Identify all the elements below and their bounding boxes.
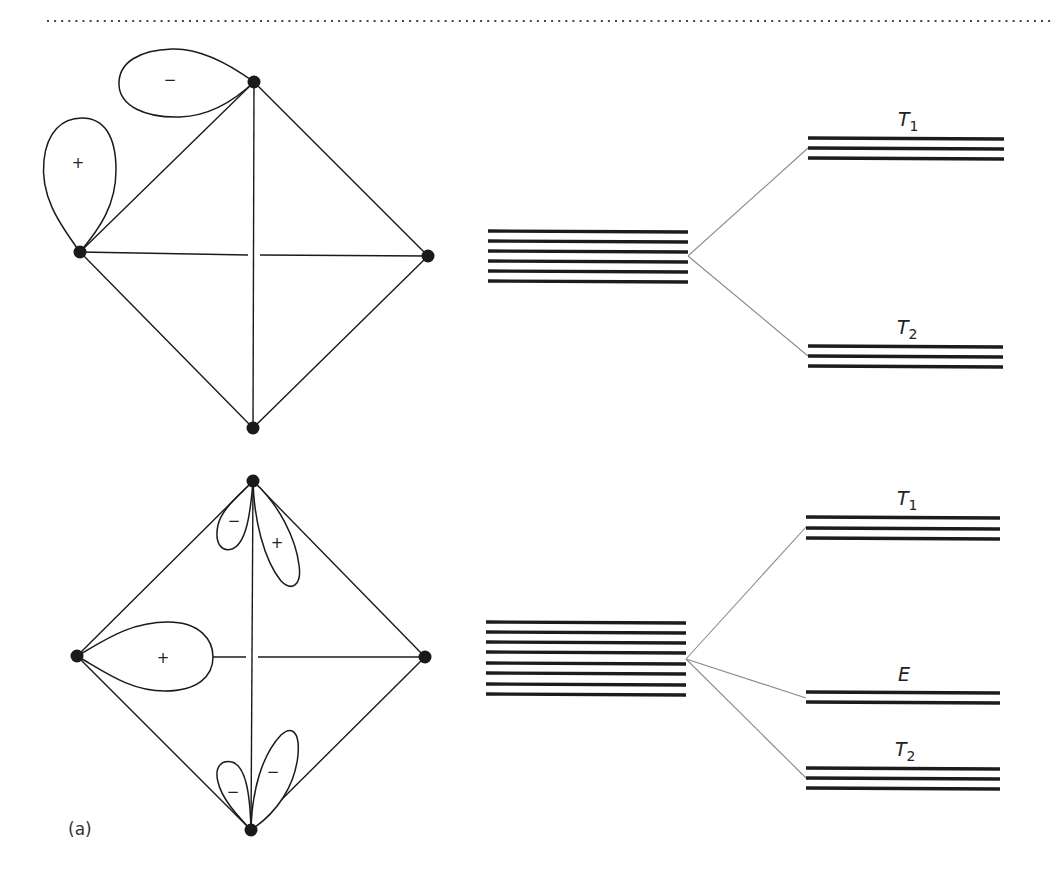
edge-top-right — [254, 82, 428, 256]
unsplit-levels-6 — [488, 231, 688, 282]
connector-to-t2 — [688, 256, 808, 356]
label-t1: T1 — [897, 487, 918, 513]
level-group-e — [806, 692, 1000, 703]
lobe-sign-plus: + — [157, 649, 170, 667]
atom-bottom — [245, 824, 258, 837]
edge-left-bottom — [80, 252, 253, 428]
upper-tetrahedron: + − — [43, 49, 434, 435]
connector-to-t1 — [686, 527, 806, 659]
level-group-t1 — [806, 517, 1000, 539]
upper-energy-diagram: T1 T2 — [488, 108, 1004, 367]
lower-tetrahedron: − + + − − (a) — [68, 475, 432, 840]
atom-right — [422, 250, 435, 263]
lobe-sign-minus: − — [227, 783, 240, 801]
panel-label: (a) — [68, 819, 92, 839]
atom-left — [74, 246, 87, 259]
unsplit-levels-8 — [486, 622, 686, 695]
lower-energy-diagram: T1 E T2 — [486, 487, 1000, 789]
label-e: E — [898, 663, 910, 685]
orbital-lobe-positive — [77, 622, 213, 691]
label-t2: T2 — [897, 316, 918, 342]
edge-right-bottom — [253, 256, 428, 428]
atom-top — [248, 76, 261, 89]
atom-right — [419, 651, 432, 664]
connector-to-e — [686, 659, 806, 698]
edge-top-bottom — [251, 481, 253, 830]
connector-to-t2 — [686, 659, 806, 778]
orbital-lobe-negative — [119, 49, 254, 117]
level-group-t1 — [808, 138, 1004, 159]
level-group-t2 — [806, 768, 1000, 789]
lobe-sign-minus: − — [267, 763, 280, 781]
orbital-lobe-positive — [43, 118, 116, 252]
edge-top-bottom — [253, 82, 254, 428]
label-t2: T2 — [895, 738, 916, 764]
atom-top — [247, 475, 260, 488]
atom-left — [71, 650, 84, 663]
edge-left-right-a — [80, 252, 248, 255]
connector-to-t1 — [688, 148, 808, 256]
crystal-field-splitting-figure: + − T1 — [0, 0, 1056, 879]
label-t1: T1 — [898, 108, 919, 134]
atom-bottom — [247, 422, 260, 435]
level-group-t2 — [808, 346, 1003, 367]
lobe-sign-plus: + — [271, 534, 284, 552]
lobe-sign-minus: − — [228, 512, 241, 530]
edge-left-right-b — [260, 255, 428, 256]
lobe-sign-minus: − — [164, 71, 177, 89]
lobe-sign-plus: + — [72, 154, 85, 172]
